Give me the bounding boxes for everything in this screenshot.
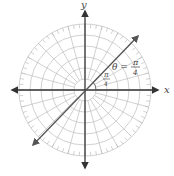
outer-tick <box>74 151 75 155</box>
outer-tick <box>52 144 54 147</box>
outer-tick <box>38 43 41 46</box>
outer-tick <box>125 137 128 140</box>
outer-tick <box>139 121 142 123</box>
outer-tick <box>96 151 97 155</box>
equation-denominator: 4 <box>132 69 137 77</box>
outer-tick <box>111 146 113 150</box>
outer-tick <box>146 101 150 102</box>
grid-spoke <box>21 73 74 87</box>
outer-tick <box>28 57 31 59</box>
outer-tick <box>106 148 107 152</box>
outer-tick <box>57 30 59 34</box>
outer-tick <box>34 48 37 51</box>
outer-tick <box>62 148 63 152</box>
outer-tick <box>43 137 46 140</box>
outer-tick <box>139 57 142 59</box>
outer-tick <box>43 39 46 42</box>
outer-tick <box>129 134 132 137</box>
outer-tick <box>34 130 37 133</box>
grid-spoke <box>96 93 149 107</box>
outer-tick <box>132 130 135 133</box>
outer-tick <box>136 52 139 54</box>
grid-spoke <box>68 26 82 79</box>
outer-tick <box>20 101 24 102</box>
outer-tick <box>52 33 54 36</box>
outer-tick <box>121 141 123 144</box>
equation-lhs: θ = <box>112 62 128 72</box>
outer-tick <box>25 116 29 118</box>
outer-tick <box>116 33 118 36</box>
outer-tick <box>96 25 97 29</box>
outer-tick <box>20 79 24 80</box>
outer-tick <box>106 28 107 32</box>
grid-spoke <box>93 98 132 137</box>
outer-tick <box>62 28 63 32</box>
outer-tick <box>31 126 34 128</box>
x-axis-label: x <box>164 84 170 95</box>
outer-tick <box>125 39 128 42</box>
outer-tick <box>101 150 102 154</box>
grid-spoke <box>21 93 74 107</box>
outer-tick <box>23 111 27 112</box>
outer-tick <box>57 146 59 150</box>
outer-tick <box>23 67 27 68</box>
grid-spoke <box>88 26 102 79</box>
grid-spoke <box>38 98 77 137</box>
grid-spoke <box>68 101 82 154</box>
outer-tick <box>68 150 69 154</box>
outer-tick <box>74 25 75 29</box>
grid-spoke <box>88 101 102 154</box>
outer-tick <box>111 30 113 34</box>
outer-tick <box>141 62 145 64</box>
y-axis-label: y <box>80 0 87 10</box>
polar-graph-figure: x y θ = π 4 π 4 <box>0 0 174 176</box>
outer-tick <box>116 144 118 147</box>
angle-denominator: 4 <box>103 80 108 87</box>
outer-tick <box>136 126 139 128</box>
outer-tick <box>143 111 147 112</box>
outer-tick <box>31 52 34 54</box>
outer-tick <box>132 48 135 51</box>
equation-numerator: π <box>132 58 139 67</box>
outer-tick <box>145 73 149 74</box>
outer-tick <box>47 141 49 144</box>
outer-tick <box>141 116 145 118</box>
grid-spoke <box>38 43 77 82</box>
outer-tick <box>145 106 149 107</box>
outer-tick <box>146 79 150 80</box>
outer-tick <box>143 67 147 68</box>
outer-tick <box>47 36 49 39</box>
outer-tick <box>121 36 123 39</box>
outer-tick <box>28 121 31 123</box>
outer-tick <box>25 62 29 64</box>
angle-numerator: π <box>103 71 109 79</box>
